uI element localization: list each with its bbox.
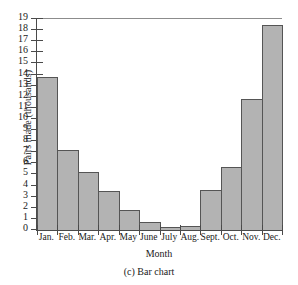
y-axis-tick-label: 5 [23, 167, 28, 177]
bar-may [119, 210, 140, 230]
x-axis-category-label: Apr. [98, 233, 119, 243]
y-axis-tick-label: 1 [23, 212, 28, 222]
y-axis-tick-label: 6 [23, 156, 28, 166]
x-axis-category-label: Jan. [36, 233, 57, 243]
y-axis-tick-label: 9 [23, 123, 28, 133]
bar-series [37, 19, 282, 230]
bar-nov [241, 99, 262, 230]
x-axis-category-label: Nov. [241, 233, 262, 243]
y-axis-tick-label: 19 [18, 12, 28, 22]
bar-sept [200, 190, 221, 230]
plot-area: 012345678910111213141516171819 [36, 18, 282, 231]
y-axis-tick-label: 0 [23, 223, 28, 233]
x-axis-category-label: June [139, 233, 160, 243]
x-axis-category-label: Dec. [262, 233, 283, 243]
bar-jan [37, 77, 58, 230]
y-axis-tick-label: 17 [18, 34, 28, 44]
y-axis-tick-label: 8 [23, 134, 28, 144]
y-axis-tick-label: 15 [18, 56, 28, 66]
y-axis-tick-label: 2 [23, 201, 28, 211]
bar-chart-figure: Pairs made (thousands) 01234567891011121… [0, 0, 298, 285]
bar-dec [262, 25, 283, 230]
figure-caption: (c) Bar chart [0, 266, 298, 277]
y-axis-tick-label: 14 [18, 68, 28, 78]
x-axis-title: Month [36, 248, 282, 259]
x-axis-category-label: Oct. [221, 233, 242, 243]
y-axis-tick-label: 4 [23, 179, 28, 189]
bar-june [139, 222, 160, 230]
y-axis-tick-label: 11 [18, 101, 28, 111]
bar-oct [221, 167, 242, 230]
bar-mar [78, 172, 99, 230]
y-axis-tick-label: 12 [18, 90, 28, 100]
x-axis-category-labels: Jan.Feb.Mar.Apr.MayJuneJulyAug.Sept.Oct.… [36, 233, 282, 243]
y-axis-tick-label: 7 [23, 145, 28, 155]
x-axis-category-label: Mar. [77, 233, 98, 243]
y-axis-tick-label: 10 [18, 112, 28, 122]
bar-feb [57, 150, 78, 230]
x-axis-category-label: May [118, 233, 139, 243]
y-axis-tick-label: 18 [18, 23, 28, 33]
x-axis-category-label: Feb. [57, 233, 78, 243]
bar-apr [98, 191, 119, 230]
x-axis-category-label: July [159, 233, 180, 243]
bar-july [160, 227, 181, 230]
bar-aug [180, 226, 201, 230]
y-axis-tick-label: 16 [18, 45, 28, 55]
x-axis-category-label: Aug. [180, 233, 201, 243]
y-axis-tick-label: 13 [18, 79, 28, 89]
x-axis-category-label: Sept. [200, 233, 221, 243]
y-axis-tick-label: 3 [23, 190, 28, 200]
x-axis-tick [282, 225, 283, 235]
